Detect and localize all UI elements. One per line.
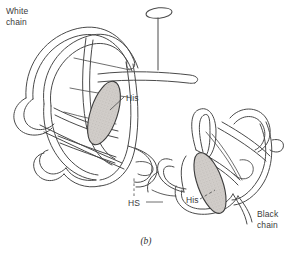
chain-diagram-svg — [0, 0, 292, 254]
his-label-right: His — [186, 195, 199, 206]
hemoglobin-figure: White chain Black chain His His HS (b) — [0, 0, 292, 254]
his-label-left: His — [126, 93, 139, 104]
white-chain-label: White chain — [6, 6, 28, 27]
black-chain-label-line2: chain — [257, 220, 278, 230]
black-chain-label-line1: Black — [257, 209, 278, 219]
top-ligand-ellipse — [146, 6, 173, 70]
white-chain-label-line2: chain — [6, 17, 27, 27]
white-chain-label-line1: White — [6, 6, 28, 16]
heme-group-right — [187, 149, 232, 218]
black-chain-label: Black chain — [257, 209, 278, 230]
figure-caption: (b) — [0, 236, 292, 246]
heme-group-left — [81, 77, 127, 148]
hs-label: HS — [128, 198, 140, 209]
